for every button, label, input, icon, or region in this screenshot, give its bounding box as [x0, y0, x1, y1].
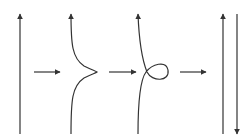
panel-antiparallel-strands: [223, 14, 237, 134]
panel-loop-strand: [138, 14, 168, 134]
strand-move-diagram: [0, 0, 252, 138]
kink-loop-icon: [138, 14, 168, 134]
bump-strand-icon: [71, 14, 97, 134]
panel-bump-strand: [71, 14, 97, 134]
